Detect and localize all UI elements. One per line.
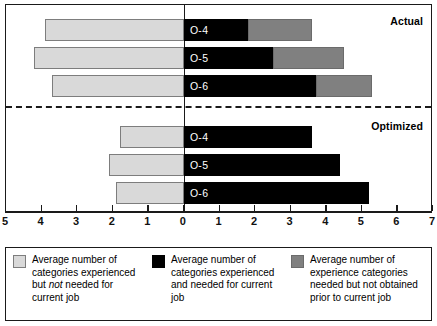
x-axis-tick-label: 2 bbox=[251, 215, 257, 227]
x-axis-line bbox=[5, 211, 432, 213]
bar-category-label: O-4 bbox=[184, 126, 208, 148]
chart-legend: Average number of categories experienced… bbox=[5, 247, 432, 321]
x-axis-tick bbox=[41, 205, 42, 211]
bar-category-label: O-6 bbox=[184, 182, 208, 204]
x-axis-tick bbox=[361, 205, 362, 211]
x-axis-tick-label: 4 bbox=[322, 215, 328, 227]
legend-label-experienced-not-needed: Average number of categories experienced… bbox=[32, 254, 146, 304]
bar-segment-needed-not-obtained bbox=[316, 75, 373, 97]
x-axis-tick-label: 1 bbox=[215, 215, 221, 227]
legend-item-experienced-not-needed: Average number of categories experienced… bbox=[10, 254, 149, 316]
legend-item-needed-not-obtained: Average number of experience categories … bbox=[288, 254, 427, 316]
bar-segment-experienced-not-needed bbox=[116, 182, 184, 204]
bar-segment-experienced-and-needed bbox=[184, 182, 369, 204]
bar-segment-experienced-not-needed bbox=[52, 75, 184, 97]
bar-category-label: O-5 bbox=[184, 47, 208, 69]
x-axis-tick bbox=[325, 205, 326, 211]
x-axis-tick bbox=[290, 205, 291, 211]
x-axis-tick bbox=[147, 205, 148, 211]
x-axis-tick bbox=[396, 205, 397, 211]
x-axis-tick bbox=[183, 205, 184, 211]
x-axis-tick-label: 3 bbox=[73, 215, 79, 227]
legend-label-needed-not-obtained: Average number of experience categories … bbox=[310, 254, 424, 304]
bar-segment-experienced-not-needed bbox=[34, 47, 183, 69]
legend-emphasis-not: not bbox=[49, 279, 63, 290]
chart-figure: Actual Optimized O-4O-5O-6O-4O-5O-6 5432… bbox=[0, 0, 437, 326]
bar-row: O-4 bbox=[6, 19, 431, 41]
x-axis-tick-label: 2 bbox=[109, 215, 115, 227]
x-axis-tick-label: 1 bbox=[144, 215, 150, 227]
x-axis-tick-label: 5 bbox=[358, 215, 364, 227]
x-axis-tick bbox=[5, 205, 6, 211]
group-divider-dashed-line bbox=[6, 106, 431, 108]
bar-segment-experienced-not-needed bbox=[45, 19, 184, 41]
bar-category-label: O-5 bbox=[184, 154, 208, 176]
bar-category-label: O-4 bbox=[184, 19, 208, 41]
plot-area: Actual Optimized O-4O-5O-6O-4O-5O-6 bbox=[6, 5, 431, 211]
bar-segment-experienced-not-needed bbox=[120, 126, 184, 148]
bar-row: O-5 bbox=[6, 154, 431, 176]
legend-label-experienced-and-needed: Average number of categories experienced… bbox=[171, 254, 285, 304]
x-axis-tick bbox=[432, 205, 433, 211]
x-axis-tick bbox=[112, 205, 113, 211]
bar-row: O-5 bbox=[6, 47, 431, 69]
bar-segment-experienced-not-needed bbox=[109, 154, 184, 176]
plot-panel: Actual Optimized O-4O-5O-6O-4O-5O-6 bbox=[5, 4, 432, 212]
x-axis-tick bbox=[254, 205, 255, 211]
x-axis-tick bbox=[76, 205, 77, 211]
bar-row: O-6 bbox=[6, 182, 431, 204]
legend-swatch-gray-icon bbox=[291, 255, 304, 268]
x-axis-tick-label: 0 bbox=[180, 215, 186, 227]
x-axis-tick-label: 4 bbox=[38, 215, 44, 227]
bar-row: O-6 bbox=[6, 75, 431, 97]
bar-category-label: O-6 bbox=[184, 75, 208, 97]
bar-segment-needed-not-obtained bbox=[273, 47, 344, 69]
x-axis-tick bbox=[219, 205, 220, 211]
x-axis-tick-label: 7 bbox=[429, 215, 435, 227]
bar-row: O-4 bbox=[6, 126, 431, 148]
legend-item-experienced-and-needed: Average number of categories experienced… bbox=[149, 254, 288, 316]
x-axis-tick-label: 6 bbox=[393, 215, 399, 227]
legend-swatch-light-gray-icon bbox=[13, 255, 26, 268]
legend-swatch-black-icon bbox=[152, 255, 165, 268]
bar-segment-needed-not-obtained bbox=[248, 19, 312, 41]
x-axis-tick-label: 5 bbox=[2, 215, 8, 227]
x-axis: 5432101234567 bbox=[5, 211, 432, 241]
x-axis-tick-label: 3 bbox=[287, 215, 293, 227]
